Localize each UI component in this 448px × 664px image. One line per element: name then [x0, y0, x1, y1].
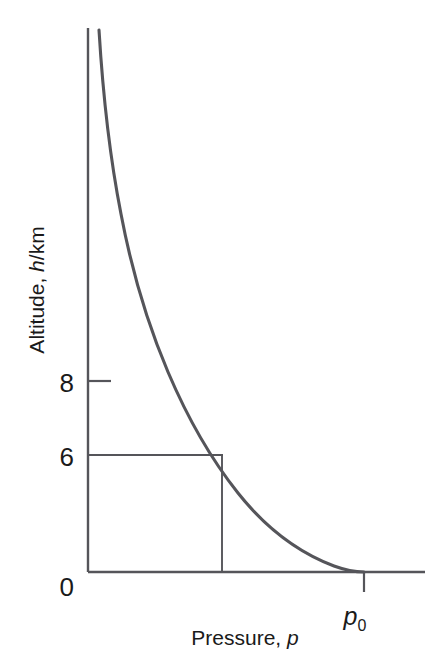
y-axis-title: Altitude, h/km: [25, 226, 48, 353]
p0-base: p: [343, 602, 358, 630]
y-axis-title-text: Altitude,: [25, 278, 48, 354]
y-tick-label-6: 6: [60, 442, 74, 472]
y-tick-label-0: 0: [60, 572, 74, 602]
y-axis-title-symbol: h: [25, 260, 48, 272]
p0-subscript: 0: [358, 617, 367, 634]
pressure-altitude-curve: [99, 30, 364, 572]
x-tick-label-p0: p0: [343, 602, 367, 634]
x-axis-title: Pressure, p: [191, 626, 298, 649]
y-tick-label-8: 8: [60, 368, 74, 398]
x-axis-title-symbol: p: [286, 626, 299, 649]
chart-plot-area: 8 6 0 p0 Pressure, p Altitude, h/km: [0, 0, 448, 664]
pressure-altitude-figure: 8 6 0 p0 Pressure, p Altitude, h/km: [0, 0, 448, 664]
x-axis-title-text: Pressure,: [191, 626, 281, 649]
y-axis-title-unit: /km: [25, 226, 48, 260]
